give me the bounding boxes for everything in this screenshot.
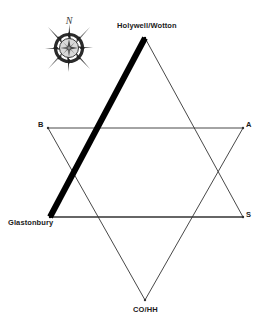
edge-a-cohh: [145, 128, 243, 300]
compass-rose-icon: N: [45, 15, 93, 72]
edge-cohh-b: [48, 128, 145, 300]
triangle-up: [50, 38, 243, 217]
compass-north-glyph: N: [65, 15, 74, 26]
vertex-holywell: [144, 37, 146, 39]
hexagram-svg: N: [0, 0, 264, 336]
hexagram-diagram: N: [0, 0, 264, 336]
edge-s-holywell: [145, 38, 243, 217]
vertex-label-s: S: [246, 211, 251, 219]
edge-glastonbury-holywell-bold: [50, 38, 145, 217]
compass-hub: [67, 46, 71, 50]
vertex-s: [242, 216, 244, 218]
vertex-label-glastonbury: Glastonbury: [8, 219, 53, 227]
vertex-label-a: A: [246, 121, 252, 129]
triangle-down: [48, 128, 243, 300]
vertex-label-b: B: [38, 121, 44, 129]
vertex-cohh: [144, 299, 146, 301]
vertex-label-cohh: CO/HH: [133, 306, 158, 314]
vertex-label-holywell: Holywell/Wotton: [117, 22, 177, 30]
vertex-a: [242, 127, 244, 129]
vertex-b: [47, 127, 49, 129]
